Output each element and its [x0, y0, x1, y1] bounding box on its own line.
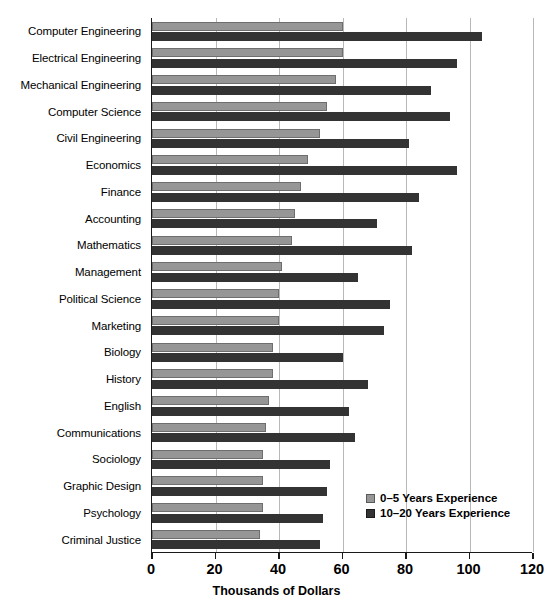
y-axis-label: Computer Engineering: [28, 25, 141, 37]
legend-label-series-1: 10–20 Years Experience: [380, 507, 510, 519]
x-axis-tick-40: [278, 553, 280, 559]
bar-series-0: [152, 289, 279, 298]
x-axis-tick-label: 60: [333, 561, 349, 577]
bar-series-0: [152, 316, 279, 325]
bar-series-1: [152, 460, 330, 469]
x-axis-tick-label: 80: [397, 561, 413, 577]
y-axis-label: Accounting: [85, 213, 141, 225]
x-axis-title: Thousands of Dollars: [0, 584, 553, 598]
y-axis-label: Electrical Engineering: [32, 52, 141, 64]
y-axis-label: Marketing: [91, 320, 141, 332]
bar-series-1: [152, 487, 327, 496]
bar-series-0: [152, 102, 327, 111]
bar-series-0: [152, 423, 266, 432]
bar-rows: [152, 18, 532, 552]
bar-series-0: [152, 343, 273, 352]
x-axis-tick-20: [215, 553, 217, 559]
legend-label-series-0: 0–5 Years Experience: [380, 492, 497, 504]
y-axis-label: Graphic Design: [63, 480, 141, 492]
chart-legend: 0–5 Years Experience 10–20 Years Experie…: [366, 492, 510, 522]
bar-series-1: [152, 273, 358, 282]
y-axis-label: Mechanical Engineering: [20, 79, 141, 91]
x-axis-tick-label: 40: [270, 561, 286, 577]
y-axis-label: Mathematics: [77, 239, 141, 251]
bar-group: [152, 446, 532, 473]
x-axis-tick-60: [342, 553, 344, 559]
bar-group: [152, 72, 532, 99]
bar-group: [152, 526, 532, 553]
y-axis-label: English: [104, 400, 141, 412]
bar-series-1: [152, 380, 368, 389]
y-axis-label: Political Science: [59, 293, 141, 305]
bar-group: [152, 286, 532, 313]
bar-series-1: [152, 514, 323, 523]
x-axis-tick-80: [405, 553, 407, 559]
bar-group: [152, 312, 532, 339]
x-axis-tick-120: [532, 553, 534, 559]
bar-series-1: [152, 219, 377, 228]
bar-series-0: [152, 262, 282, 271]
bar-series-0: [152, 155, 308, 164]
y-axis-label: Sociology: [92, 453, 141, 465]
y-axis-label: History: [106, 373, 141, 385]
bar-series-1: [152, 139, 409, 148]
y-axis-label: Economics: [86, 159, 141, 171]
bar-series-0: [152, 75, 336, 84]
bar-group: [152, 393, 532, 420]
legend-swatch-icon-series-1: [366, 509, 375, 518]
x-axis-tick-0: [151, 553, 153, 559]
x-axis-tick-label: 120: [520, 561, 544, 577]
y-axis-label: Civil Engineering: [56, 132, 141, 144]
bar-series-1: [152, 112, 450, 121]
y-axis-label: Psychology: [83, 507, 141, 519]
bar-series-0: [152, 129, 320, 138]
bar-series-0: [152, 209, 295, 218]
bar-series-0: [152, 369, 273, 378]
y-axis-label: Management: [75, 266, 141, 278]
y-axis-label: Biology: [104, 346, 141, 358]
bar-series-1: [152, 166, 457, 175]
x-axis-tick-100: [469, 553, 471, 559]
bar-group: [152, 205, 532, 232]
bar-group: [152, 98, 532, 125]
bar-chart: Computer EngineeringElectrical Engineeri…: [0, 0, 553, 603]
bar-series-1: [152, 433, 355, 442]
x-axis-tick-label: 100: [456, 561, 480, 577]
bar-group: [152, 125, 532, 152]
bar-group: [152, 259, 532, 286]
bar-group: [152, 339, 532, 366]
bar-series-0: [152, 22, 343, 31]
bar-group: [152, 419, 532, 446]
bar-series-0: [152, 450, 263, 459]
y-axis-label: Criminal Justice: [61, 534, 141, 546]
bar-series-1: [152, 59, 457, 68]
bar-series-1: [152, 32, 482, 41]
y-axis-label: Communications: [57, 427, 141, 439]
bar-series-1: [152, 300, 390, 309]
bar-series-1: [152, 246, 412, 255]
x-axis-tick-label: 20: [206, 561, 222, 577]
bar-series-0: [152, 530, 260, 539]
bar-series-0: [152, 236, 292, 245]
bar-series-1: [152, 407, 349, 416]
bar-series-0: [152, 396, 269, 405]
bar-series-0: [152, 476, 263, 485]
plot-area: [151, 18, 532, 553]
legend-item-series-0: 0–5 Years Experience: [366, 492, 510, 504]
bar-series-0: [152, 182, 301, 191]
bar-group: [152, 179, 532, 206]
y-axis-category-labels: Computer EngineeringElectrical Engineeri…: [0, 18, 146, 553]
bar-group: [152, 45, 532, 72]
bar-series-0: [152, 503, 263, 512]
bar-series-1: [152, 540, 320, 549]
x-axis-tick-label: 0: [147, 561, 155, 577]
bar-group: [152, 232, 532, 259]
bar-group: [152, 152, 532, 179]
bar-series-1: [152, 353, 343, 362]
bar-series-1: [152, 326, 384, 335]
y-axis-label: Finance: [101, 186, 141, 198]
bar-group: [152, 366, 532, 393]
bar-series-1: [152, 86, 431, 95]
bar-series-0: [152, 48, 343, 57]
y-axis-label: Computer Science: [48, 106, 141, 118]
